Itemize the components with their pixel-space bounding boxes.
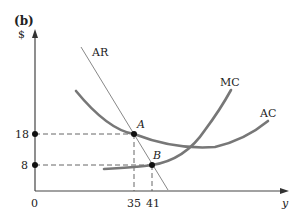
ac-curve [76,91,268,147]
ar-label: AR [91,46,109,59]
x-tick-35: 35 [127,197,141,210]
x-tick-41: 41 [146,197,160,210]
y-tick-18: 18 [15,128,29,141]
point-a-label: A [136,118,145,131]
x-axis-arrow-icon [280,188,289,194]
guide-lines [35,134,152,191]
panel-label: (b) [14,14,34,28]
y-axis-label: $ [18,28,25,41]
y-tick-8: 8 [21,159,28,172]
chart-canvas: (b) $ y 0 AR AC MC A B 18 8 35 41 [0,0,302,218]
y18-marker [32,131,38,137]
ac-label: AC [259,107,276,120]
axes [32,29,289,194]
y-axis-arrow-icon [32,29,38,38]
x-axis-label: y [281,197,289,210]
point-a-marker [131,131,137,137]
point-b-marker [149,162,155,168]
y8-marker [32,162,38,168]
point-b-label: B [152,149,161,162]
origin-label: 0 [31,197,38,210]
mc-label: MC [220,76,240,89]
